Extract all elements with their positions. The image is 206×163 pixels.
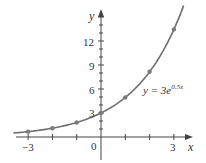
data-point [99, 111, 103, 115]
x-axis-title: x [187, 140, 194, 154]
data-point [172, 27, 176, 31]
data-point [50, 126, 54, 130]
y-tick-label-6: 6 [89, 84, 95, 96]
data-point [147, 70, 151, 74]
y-tick-label-9: 9 [89, 60, 95, 72]
y-axis-title: y [88, 9, 95, 23]
exponential-curve [14, 6, 184, 133]
y-tick-label-12: 12 [83, 36, 94, 48]
origin-label: 0 [91, 140, 97, 152]
y-axis-arrow-icon [98, 9, 104, 17]
equation-label: y = 3e0.5x [142, 83, 184, 96]
x-tick-label-3: 3 [170, 141, 176, 153]
x-tick-label-neg3: −3 [22, 141, 34, 153]
data-point [26, 129, 30, 133]
chart: x y −3 0 3 3 6 9 12 y = 3e0.5x [0, 0, 206, 163]
data-point [123, 95, 127, 99]
curve [14, 6, 184, 133]
y-tick-label-3: 3 [89, 107, 95, 119]
data-point [75, 120, 79, 124]
